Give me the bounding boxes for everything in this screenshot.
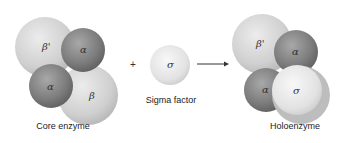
holo-beta-prime-symbol: β' xyxy=(255,38,265,49)
holo-alpha-symbol-2: α xyxy=(262,84,269,95)
holoenzyme-label: Holoenzyme xyxy=(270,121,320,131)
sigma-factor: σ xyxy=(150,45,190,85)
holo-sigma-symbol: σ xyxy=(293,85,301,96)
core-beta-prime-symbol: β' xyxy=(41,41,51,52)
sigma-factor-label: Sigma factor xyxy=(146,95,197,105)
plus-operator: + xyxy=(130,59,136,70)
core-alpha-subunit-2: α xyxy=(29,64,73,108)
holo-alpha-symbol-1: α xyxy=(292,46,299,57)
sigma-symbol: σ xyxy=(167,59,175,70)
reaction-arrow-icon xyxy=(197,62,229,67)
core-enzyme: β' β α α xyxy=(15,17,118,125)
holo-sigma-subunit: σ xyxy=(272,65,330,124)
core-alpha-symbol-2: α xyxy=(47,81,54,92)
core-enzyme-label: Core enzyme xyxy=(36,121,90,131)
core-alpha-subunit-1: α xyxy=(61,28,105,72)
holoenzyme: β' α α σ xyxy=(232,14,330,124)
core-beta-symbol: β xyxy=(88,90,95,101)
core-alpha-symbol-1: α xyxy=(80,44,87,55)
